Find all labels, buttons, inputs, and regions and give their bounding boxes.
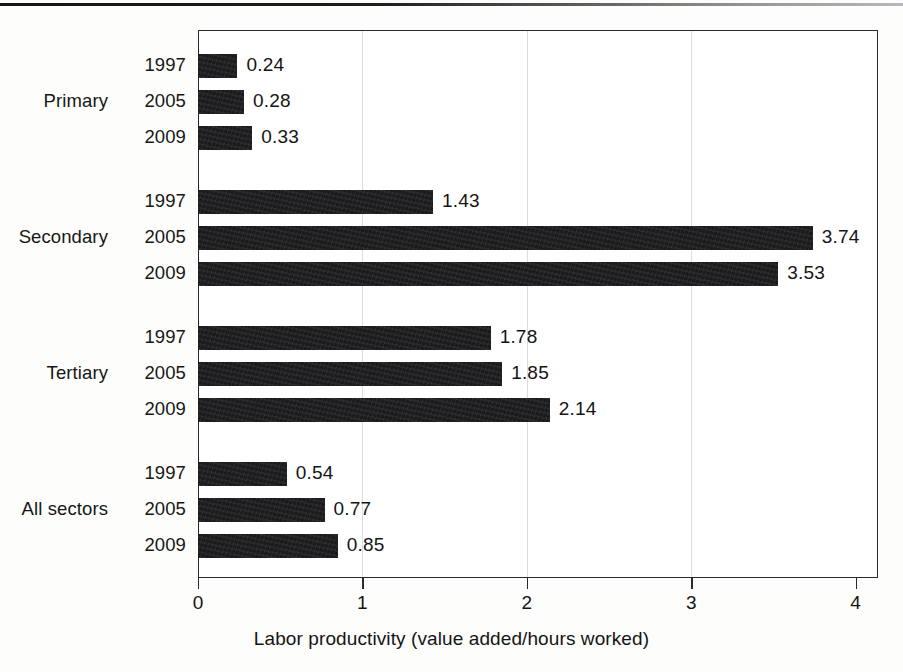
- x-tick-3: [691, 578, 692, 589]
- x-tick-0: [198, 578, 199, 589]
- year-label: 2009: [110, 398, 186, 420]
- bar-value-label: 0.54: [296, 462, 334, 484]
- year-label: 2009: [110, 126, 186, 148]
- x-axis-title: Labor productivity (value added/hours wo…: [0, 628, 903, 650]
- bar-value-label: 2.14: [559, 398, 597, 420]
- bar: [198, 54, 237, 78]
- bar-value-label: 0.85: [347, 534, 385, 556]
- bar-chart: 199720052009Primary199720052009Secondary…: [0, 0, 903, 672]
- bar: [198, 398, 550, 422]
- x-tick-2: [527, 578, 528, 589]
- bar-value-label: 0.33: [261, 126, 299, 148]
- year-label: 1997: [110, 190, 186, 212]
- bar: [198, 498, 325, 522]
- x-tick-4: [856, 578, 857, 589]
- bar: [198, 326, 491, 350]
- plot-frame: [198, 30, 878, 578]
- bar: [198, 90, 244, 114]
- group-label-tertiary: Tertiary: [0, 362, 108, 384]
- bar: [198, 190, 433, 214]
- year-label: 1997: [110, 326, 186, 348]
- x-tick-label-4: 4: [836, 592, 876, 614]
- x-tick-label-2: 2: [507, 592, 547, 614]
- x-tick-1: [362, 578, 363, 589]
- gridline-3: [691, 31, 692, 577]
- year-label: 1997: [110, 54, 186, 76]
- group-label-secondary: Secondary: [0, 226, 108, 248]
- year-label: 2005: [110, 226, 186, 248]
- bar: [198, 462, 287, 486]
- bar: [198, 534, 338, 558]
- bar-value-label: 1.78: [500, 326, 538, 348]
- bar-value-label: 0.24: [246, 54, 284, 76]
- x-tick-label-3: 3: [671, 592, 711, 614]
- bar: [198, 226, 813, 250]
- x-tick-label-0: 0: [178, 592, 218, 614]
- year-label: 2005: [110, 498, 186, 520]
- bar-value-label: 3.74: [822, 226, 860, 248]
- gridline-2: [527, 31, 528, 577]
- year-label: 1997: [110, 462, 186, 484]
- bar-value-label: 1.43: [442, 190, 480, 212]
- group-label-primary: Primary: [0, 90, 108, 112]
- bar-value-label: 0.28: [253, 90, 291, 112]
- year-label: 2005: [110, 362, 186, 384]
- bar-value-label: 1.85: [511, 362, 549, 384]
- gridline-1: [362, 31, 363, 577]
- category-axis-labels: 199720052009Primary199720052009Secondary…: [0, 0, 192, 672]
- x-tick-label-1: 1: [342, 592, 382, 614]
- bar-value-label: 0.77: [334, 498, 372, 520]
- year-label: 2009: [110, 534, 186, 556]
- bar: [198, 126, 252, 150]
- group-label-all-sectors: All sectors: [0, 498, 108, 520]
- year-label: 2009: [110, 262, 186, 284]
- bar: [198, 362, 502, 386]
- bar: [198, 262, 778, 286]
- bar-value-label: 3.53: [787, 262, 825, 284]
- year-label: 2005: [110, 90, 186, 112]
